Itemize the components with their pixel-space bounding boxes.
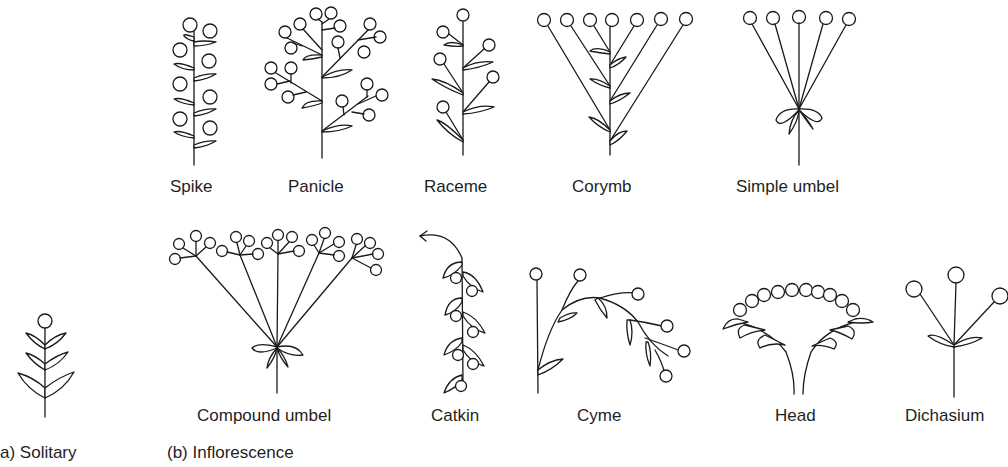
dichasium-drawing [0, 0, 1008, 420]
section-b-caption: (b) Inflorescence [167, 443, 294, 463]
section-a-caption: a) Solitary [0, 443, 77, 463]
dichasium-label: Dichasium [905, 406, 984, 426]
dichasium-icon [0, 0, 1008, 420]
